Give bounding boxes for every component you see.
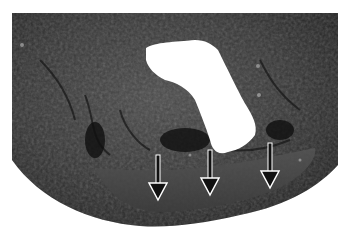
specimen-photo [0, 0, 349, 234]
